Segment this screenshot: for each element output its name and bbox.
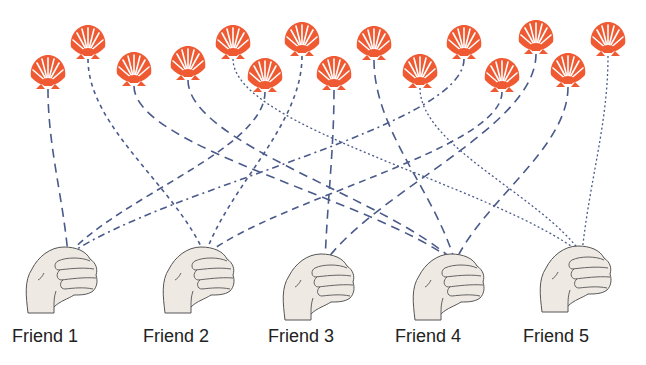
shell-icon: [171, 46, 206, 80]
connection-line-s7-f2: [205, 56, 302, 255]
fist-icon: [283, 254, 354, 320]
friend-label-f4: Friend 4: [395, 326, 461, 347]
connection-line-s5-f5: [233, 59, 582, 254]
shell-icon: [285, 22, 320, 56]
friend-label-f2: Friend 2: [143, 326, 209, 347]
shell-icon: [591, 22, 626, 56]
shell-icon: [31, 55, 66, 89]
connection-line-s4-f4: [188, 80, 455, 262]
friend-label-f1: Friend 1: [12, 326, 78, 347]
shell-icon: [248, 58, 283, 92]
connection-line-s3-f4: [134, 86, 455, 262]
shell-icon: [357, 26, 392, 60]
fist-icon: [413, 254, 484, 320]
fist-icon: [26, 247, 97, 313]
shell-icon: [216, 25, 251, 59]
connection-line-s10-f5: [420, 88, 582, 254]
friend-label-f3: Friend 3: [268, 326, 334, 347]
friend-label-f5: Friend 5: [523, 326, 589, 347]
connection-line-s6-f1: [68, 92, 265, 255]
shell-icon: [447, 25, 482, 59]
shell-friend-diagram: [0, 0, 646, 365]
connection-line-s1-f1: [48, 89, 68, 255]
connection-line-s15-f5: [582, 56, 608, 254]
shell-icon: [317, 56, 352, 90]
shell-icon: [485, 58, 520, 92]
shell-icon: [71, 25, 106, 59]
shell-icon: [117, 52, 152, 86]
connection-line-s14-f4: [455, 87, 568, 262]
fist-icon: [163, 247, 234, 313]
shell-icon: [551, 53, 586, 87]
shell-icon: [403, 54, 438, 88]
shell-icon: [519, 20, 554, 54]
connection-line-s8-f3: [325, 90, 334, 262]
fist-icon: [540, 246, 611, 312]
friends: [26, 246, 611, 320]
connection-line-s2-f2: [88, 59, 205, 255]
